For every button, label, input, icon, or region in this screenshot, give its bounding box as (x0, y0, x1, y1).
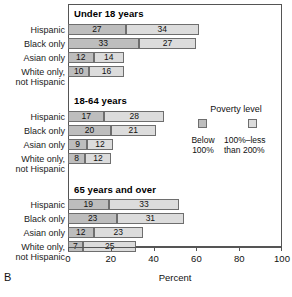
row-label-line2: not Hispanic (0, 252, 65, 263)
row-label-2-1: Black only (0, 214, 65, 225)
x-tick-label-60: 60 (191, 253, 202, 264)
legend-swatches (186, 119, 286, 132)
legend-label-below-100-line2: 100% (186, 145, 220, 155)
row-label-line1: Asian only (0, 140, 65, 151)
bar-2-1: 2331 (68, 213, 184, 224)
bar-2-0: 1933 (68, 199, 179, 210)
row-label-line1: White only, (0, 67, 65, 78)
row-label-line1: Black only (0, 214, 65, 225)
bar-segment-below-100: 10 (68, 66, 89, 77)
bar-segment-below-100: 17 (68, 111, 104, 122)
row-label-2-0: Hispanic (0, 200, 65, 211)
bar-segment-below-100: 9 (68, 139, 87, 150)
row-label-0-1: Black only (0, 39, 65, 50)
legend-title: Poverty level (186, 104, 286, 114)
x-axis-line (68, 247, 282, 248)
x-tick-label-100: 100 (274, 253, 290, 264)
legend: Poverty level Below 100% 100%–less than … (186, 104, 286, 159)
row-label-line1: Hispanic (0, 25, 65, 36)
legend-label-100-to-200-line2: than 200% (224, 145, 286, 155)
panel-title-65-over: 65 years and over (74, 184, 156, 195)
row-label-1-3: White only,not Hispanic (0, 154, 65, 175)
legend-label-100-to-200-line1: 100%–less (224, 135, 286, 145)
bar-segment-below-100: 12 (68, 52, 94, 63)
bar-1-3: 812 (68, 153, 111, 164)
bar-segment-100-to-200: 34 (126, 24, 199, 35)
bar-segment-below-100: 20 (68, 125, 111, 136)
row-label-line1: Hispanic (0, 112, 65, 123)
row-label-line1: White only, (0, 242, 65, 253)
legend-label-below-100-line1: Below (186, 135, 220, 145)
bar-1-1: 2021 (68, 125, 156, 136)
legend-label-100-to-200: 100%–less than 200% (224, 135, 286, 155)
row-label-2-3: White only,not Hispanic (0, 242, 65, 263)
legend-swatch-below-100 (198, 119, 207, 128)
row-label-0-3: White only,not Hispanic (0, 67, 65, 88)
x-tick-20 (111, 247, 112, 251)
row-label-0-2: Asian only (0, 53, 65, 64)
bar-segment-100-to-200: 28 (104, 111, 164, 122)
legend-labels: Below 100% 100%–less than 200% (186, 135, 286, 159)
bar-0-1: 3327 (68, 38, 196, 49)
x-tick-label-80: 80 (234, 253, 245, 264)
bar-0-0: 2734 (68, 24, 199, 35)
bar-segment-below-100: 19 (68, 199, 109, 210)
bar-1-0: 1728 (68, 111, 164, 122)
bar-segment-100-to-200: 12 (85, 153, 111, 164)
x-tick-0 (68, 247, 69, 251)
row-label-2-2: Asian only (0, 228, 65, 239)
row-label-1-0: Hispanic (0, 112, 65, 123)
row-label-line1: Asian only (0, 228, 65, 239)
row-label-1-2: Asian only (0, 140, 65, 151)
row-label-line1: Asian only (0, 53, 65, 64)
row-label-line1: Hispanic (0, 200, 65, 211)
bar-0-3: 1016 (68, 66, 124, 77)
row-label-line1: Black only (0, 39, 65, 50)
x-tick-label-20: 20 (106, 253, 117, 264)
row-label-line2: not Hispanic (0, 77, 65, 88)
bar-segment-below-100: 27 (68, 24, 126, 35)
row-label-1-1: Black only (0, 126, 65, 137)
chart-figure: Under 18 years 18-64 years 65 years and … (0, 0, 292, 297)
x-tick-80 (239, 247, 240, 251)
row-label-line1: Black only (0, 126, 65, 137)
panel-title-18-64: 18-64 years (74, 95, 127, 106)
legend-swatch-100-to-200 (248, 119, 257, 128)
bar-segment-below-100: 23 (68, 213, 117, 224)
bar-segment-below-100: 33 (68, 38, 139, 49)
legend-label-below-100: Below 100% (186, 135, 220, 155)
bar-segment-100-to-200: 27 (139, 38, 197, 49)
x-tick-label-40: 40 (148, 253, 159, 264)
bar-segment-100-to-200: 31 (117, 213, 183, 224)
panel-letter: B (4, 271, 11, 283)
bar-segment-100-to-200: 23 (94, 227, 143, 238)
x-axis-title: Percent (68, 272, 282, 283)
x-tick-60 (196, 247, 197, 251)
x-tick-40 (154, 247, 155, 251)
bar-segment-100-to-200: 12 (87, 139, 113, 150)
panel-title-under-18: Under 18 years (74, 8, 144, 19)
bar-segment-100-to-200: 33 (109, 199, 180, 210)
bar-segment-below-100: 12 (68, 227, 94, 238)
row-label-line1: White only, (0, 154, 65, 165)
bar-segment-100-to-200: 14 (94, 52, 124, 63)
bar-2-2: 1223 (68, 227, 143, 238)
bar-segment-100-to-200: 16 (89, 66, 123, 77)
row-label-line2: not Hispanic (0, 164, 65, 175)
x-tick-100 (281, 247, 282, 251)
bar-0-2: 1214 (68, 52, 124, 63)
x-tick-label-0: 0 (65, 253, 70, 264)
bar-segment-100-to-200: 21 (111, 125, 156, 136)
row-label-0-0: Hispanic (0, 25, 65, 36)
bar-1-2: 912 (68, 139, 113, 150)
bar-segment-below-100: 8 (68, 153, 85, 164)
